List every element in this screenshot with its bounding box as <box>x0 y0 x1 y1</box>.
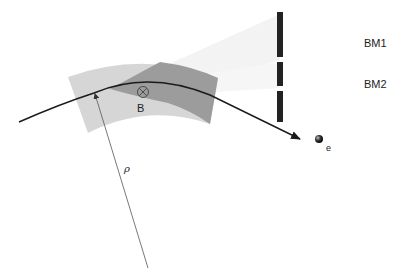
screen-segment-bottom <box>277 91 283 122</box>
radius-label: ρ <box>124 163 130 174</box>
electron-label: e <box>326 143 331 153</box>
electron-sphere-icon <box>315 135 323 143</box>
bm2-label: BM2 <box>364 78 387 90</box>
screen-segment-middle <box>277 62 283 86</box>
screen-segment-top <box>277 12 283 57</box>
field-label: B <box>137 102 144 114</box>
screen <box>277 12 283 122</box>
bm1-label: BM1 <box>364 37 387 49</box>
diagram-canvas <box>0 0 403 277</box>
